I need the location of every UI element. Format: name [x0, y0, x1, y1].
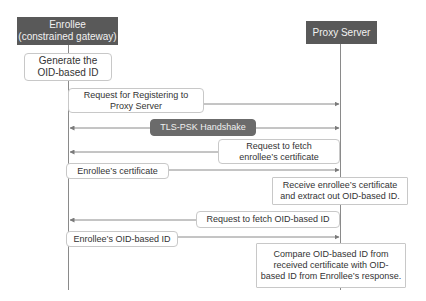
message-register-request: Request for Registering to Proxy Server	[68, 88, 204, 113]
note-receive-line2: and extract out OID-based ID.	[280, 191, 400, 202]
message-fetch-oid: Request to fetch OID-based ID	[196, 211, 340, 228]
message-enrollee-certificate: Enrollee’s certificate	[66, 163, 169, 179]
note-receive-line1: Receive enrollee’s certificate	[283, 180, 397, 191]
message-tls-handshake: TLS-PSK Handshake	[150, 119, 256, 136]
message-tls-label: TLS-PSK Handshake	[160, 122, 246, 133]
note-compare-line3: based ID from Enrollee’s response.	[261, 271, 401, 282]
message-enrollee-oid: Enrollee’s OID-based ID	[66, 231, 178, 247]
message-register-line1: Request for Registering to	[84, 90, 189, 101]
message-fetch-cert-line2: enrollee’s certificate	[239, 152, 318, 163]
message-oid-label: Enrollee’s OID-based ID	[74, 234, 171, 245]
note-compare-line1: Compare OID-based ID from	[273, 249, 388, 260]
message-fetch-certificate: Request to fetch enrollee’s certificate	[218, 139, 340, 164]
message-cert-label: Enrollee’s certificate	[77, 166, 157, 177]
step-generate-oid: Generate the OID-based ID	[24, 53, 112, 81]
note-compare-oid: Compare OID-based ID from received certi…	[256, 243, 406, 288]
note-receive-certificate: Receive enrollee’s certificate and extra…	[272, 177, 408, 205]
message-fetch-oid-label: Request to fetch OID-based ID	[206, 214, 329, 225]
step-generate-line1: Generate the	[39, 55, 97, 67]
message-fetch-cert-line1: Request to fetch	[246, 141, 312, 152]
step-generate-line2: OID-based ID	[37, 67, 98, 79]
note-compare-line2: received certificate with OID-	[273, 260, 388, 271]
message-register-line2: Proxy Server	[110, 101, 162, 112]
